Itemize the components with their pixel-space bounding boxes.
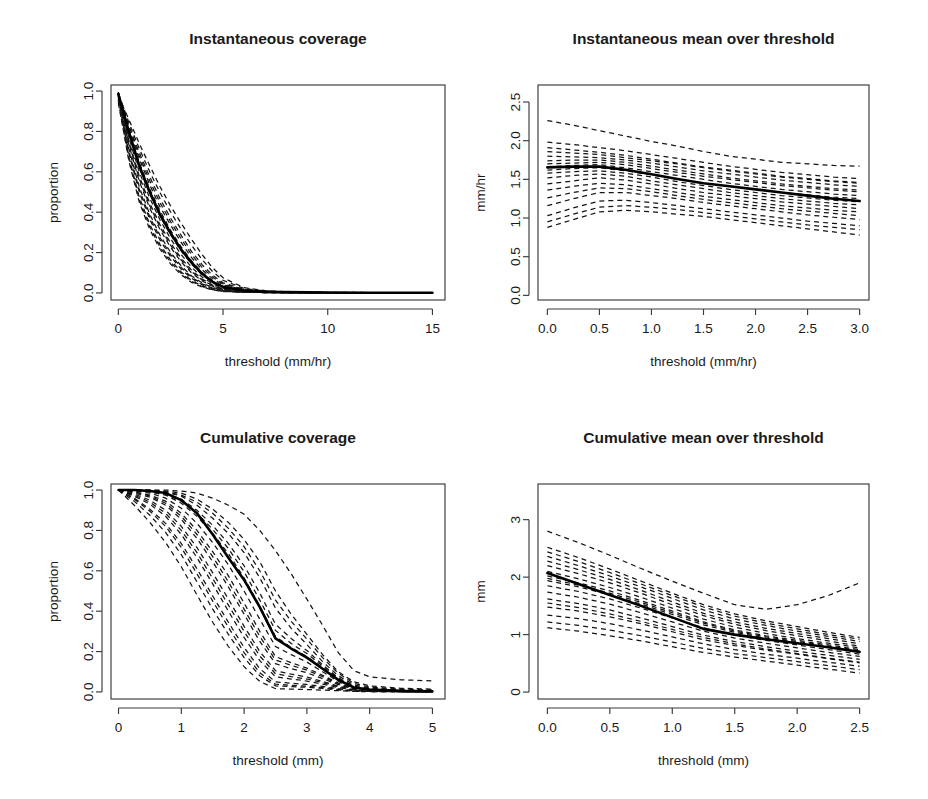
ensemble-line <box>118 97 432 293</box>
y-tick-label: 0.6 <box>82 162 97 181</box>
ensemble-line <box>118 94 432 293</box>
ensemble-line <box>547 210 859 235</box>
y-axis-label: mm/hr <box>473 173 488 212</box>
ensemble-line <box>547 547 859 637</box>
y-tick-label: 0.4 <box>82 202 97 221</box>
y-tick-label: 2 <box>509 573 524 581</box>
x-tick-label: 0 <box>115 321 123 336</box>
x-tick-label: 3 <box>303 720 311 735</box>
mean-line <box>547 573 859 652</box>
y-axis-label: mm <box>473 580 488 603</box>
y-tick-label: 2.0 <box>509 131 524 150</box>
y-tick-label: 0.4 <box>82 601 97 620</box>
ensemble-line <box>547 165 859 196</box>
y-tick-label: 1.0 <box>82 82 97 101</box>
series-layer <box>547 121 859 235</box>
panel-cumulative-mean-over-threshold: Cumulative mean over threshold0.00.51.01… <box>464 399 928 799</box>
y-tick-label: 0.2 <box>82 243 97 262</box>
y-tick-label: 1 <box>509 631 524 639</box>
x-tick-label: 1.0 <box>642 321 661 336</box>
plot-frame <box>538 484 869 699</box>
x-tick-label: 2 <box>240 720 248 735</box>
panel-title: Cumulative mean over threshold <box>583 429 823 446</box>
x-tick-label: 0.5 <box>590 321 609 336</box>
x-tick-label: 5 <box>429 720 437 735</box>
x-axis-label: threshold (mm/hr) <box>225 354 332 369</box>
ensemble-line <box>118 95 432 293</box>
plot-frame <box>111 85 445 300</box>
y-tick-label: 0.6 <box>82 561 97 580</box>
x-tick-label: 2.0 <box>788 720 807 735</box>
panel-cumulative-coverage: Cumulative coverage0123450.00.20.40.60.8… <box>0 399 464 799</box>
y-tick-label: 0.8 <box>82 521 97 540</box>
ensemble-line <box>118 103 432 293</box>
x-tick-label: 0 <box>115 720 123 735</box>
ensemble-line <box>118 94 432 293</box>
ensemble-line <box>119 490 433 689</box>
x-tick-label: 1.0 <box>663 720 682 735</box>
y-tick-label: 0.8 <box>82 122 97 141</box>
x-tick-label: 10 <box>320 321 335 336</box>
y-tick-label: 0 <box>509 688 524 696</box>
x-tick-label: 4 <box>366 720 374 735</box>
ensemble-line <box>547 183 859 212</box>
mean-line <box>118 94 432 293</box>
y-tick-label: 1.0 <box>82 481 97 500</box>
x-tick-label: 2.5 <box>798 321 817 336</box>
x-tick-label: 1 <box>178 720 186 735</box>
ensemble-line <box>118 93 432 293</box>
y-tick-label: 3 <box>509 516 524 524</box>
x-tick-label: 2.0 <box>746 321 765 336</box>
x-tick-label: 0.5 <box>600 720 619 735</box>
panel-instantaneous-mean-over-threshold: Instantaneous mean over threshold0.00.51… <box>464 0 928 400</box>
y-tick-label: 1.5 <box>509 170 524 189</box>
ensemble-line <box>119 490 433 681</box>
y-tick-label: 1.0 <box>509 209 524 228</box>
ensemble-line <box>118 95 432 293</box>
ensemble-line <box>547 561 859 644</box>
ensemble-line <box>547 121 859 167</box>
ensemble-line <box>118 96 432 293</box>
y-tick-label: 0.0 <box>509 286 524 305</box>
x-tick-label: 0.0 <box>538 720 557 735</box>
ensemble-line <box>547 206 859 230</box>
x-tick-label: 5 <box>219 321 227 336</box>
ensemble-line <box>118 96 432 293</box>
panel-title: Instantaneous mean over threshold <box>573 30 835 47</box>
y-tick-label: 0.0 <box>82 683 97 702</box>
ensemble-line <box>118 94 432 293</box>
x-tick-label: 15 <box>425 321 440 336</box>
ensemble-line <box>118 93 432 293</box>
panel-instantaneous-coverage: Instantaneous coverage0510150.00.20.40.6… <box>0 0 464 400</box>
panel-title: Instantaneous coverage <box>189 30 367 47</box>
x-tick-label: 3.0 <box>850 321 869 336</box>
ensemble-line <box>118 92 432 293</box>
x-tick-label: 0.0 <box>538 321 557 336</box>
panel-title: Cumulative coverage <box>200 429 356 446</box>
x-axis-label: threshold (mm) <box>233 753 324 768</box>
figure-root: Instantaneous coverage0510150.00.20.40.6… <box>0 0 928 799</box>
series-layer <box>118 92 432 293</box>
series-layer <box>119 490 433 692</box>
y-axis-label: proportion <box>46 561 61 622</box>
y-tick-label: 0.2 <box>82 642 97 661</box>
ensemble-line <box>118 93 432 293</box>
x-tick-label: 2.5 <box>850 720 869 735</box>
plot-frame <box>111 484 445 699</box>
y-axis-label: proportion <box>46 162 61 223</box>
y-tick-label: 2.5 <box>509 93 524 112</box>
y-tick-label: 0.5 <box>509 247 524 266</box>
x-tick-label: 1.5 <box>694 321 713 336</box>
y-tick-label: 0.0 <box>82 284 97 303</box>
x-axis-label: threshold (mm/hr) <box>650 354 757 369</box>
x-tick-label: 1.5 <box>725 720 744 735</box>
x-axis-label: threshold (mm) <box>658 753 749 768</box>
series-layer <box>547 531 859 673</box>
ensemble-line <box>118 92 432 293</box>
